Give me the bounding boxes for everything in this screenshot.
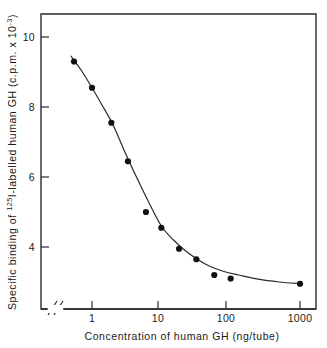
axis-break-gap: [47, 305, 64, 313]
data-point: [108, 120, 114, 126]
x-axis-title: Concentration of human GH (ng/tube): [85, 330, 280, 342]
figure-panel: 10 8 6 4 1 10 100 1000 Concentration of …: [0, 0, 327, 348]
x-tick-marks: [92, 301, 300, 309]
y-axis-title-part4: ): [6, 14, 18, 18]
y-axis-title-sup2: -3: [5, 18, 14, 26]
y-tick-label-0: 10: [23, 31, 35, 43]
data-point: [71, 58, 77, 64]
plot-area: 10 8 6 4 1 10 100 1000 Concentration of …: [0, 0, 327, 348]
data-point: [158, 225, 164, 231]
y-axis-title-part2: I-labelled human GH: [6, 90, 18, 197]
fitted-curve: [71, 56, 300, 284]
y-axis-title-sup: 125: [5, 197, 14, 211]
data-point: [143, 209, 149, 215]
data-point: [211, 272, 217, 278]
data-point: [193, 256, 199, 262]
y-axis-title-part3: (c.p.m. x 10: [6, 26, 18, 87]
y-axis-title: Specific binding of 125I-labelled human …: [5, 14, 18, 310]
svg-text:Specific binding of 125I-label: Specific binding of 125I-labelled human …: [5, 14, 18, 310]
y-tick-marks: [41, 37, 49, 247]
x-tick-label-1: 10: [152, 312, 164, 324]
x-tick-label-2: 100: [217, 312, 235, 324]
y-tick-label-2: 6: [29, 171, 35, 183]
data-point: [176, 246, 182, 252]
y-axis-title-part1: Specific binding of: [6, 214, 18, 310]
y-tick-label-3: 4: [29, 241, 35, 253]
data-point: [228, 275, 234, 281]
x-tick-label-0: 1: [89, 312, 95, 324]
plot-frame: [41, 14, 316, 309]
data-point: [125, 158, 131, 164]
data-point: [297, 281, 303, 287]
y-tick-label-1: 8: [29, 101, 35, 113]
x-tick-label-3: 1000: [288, 312, 313, 324]
data-point: [89, 85, 95, 91]
